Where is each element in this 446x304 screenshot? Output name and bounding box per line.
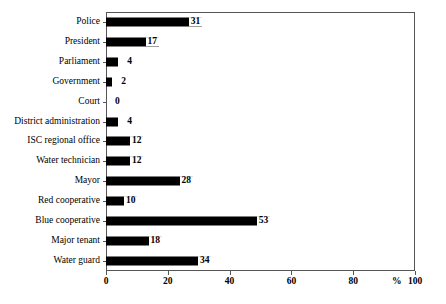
chart-row: Mayor28 — [106, 171, 415, 191]
bar — [106, 217, 270, 226]
x-axis-tick — [415, 271, 416, 275]
x-axis-tick — [168, 271, 169, 275]
bar-value-label: 4 — [125, 117, 134, 127]
category-label: Major tenant — [51, 236, 100, 246]
bar-value-label: 0 — [113, 97, 122, 107]
bar-value-label: 31 — [189, 17, 203, 27]
category-label: Parliament — [59, 57, 100, 67]
chart-row: Major tenant18 — [106, 231, 415, 251]
chart-row: ISC regional office12 — [106, 132, 415, 152]
x-axis-tick — [353, 271, 354, 275]
y-axis-tick — [103, 102, 106, 103]
x-axis-tick-label: 60 — [287, 277, 297, 287]
x-axis-tick — [230, 271, 231, 275]
x-axis: % 020406080100 — [106, 271, 415, 301]
bar — [106, 17, 202, 26]
bar-value-label: 10 — [124, 197, 138, 207]
x-axis-tick — [106, 271, 107, 275]
category-label: District administration — [14, 117, 100, 127]
x-axis-tick-label: 40 — [225, 277, 235, 287]
x-axis-percent-label: % — [392, 277, 402, 287]
category-label: Mayor — [75, 177, 100, 187]
x-axis-tick — [291, 271, 292, 275]
x-axis-tick-label: 0 — [104, 277, 109, 287]
category-label: Water guard — [54, 256, 100, 266]
bar — [106, 257, 211, 266]
bar-value-label: 12 — [130, 137, 144, 147]
category-label: Police — [76, 17, 100, 27]
chart-row: Government2 — [106, 72, 415, 92]
category-label: Blue cooperative — [35, 216, 100, 226]
chart-row: Court0 — [106, 92, 415, 112]
category-label: ISC regional office — [27, 137, 100, 147]
category-label: President — [65, 37, 100, 47]
chart-row: Blue cooperative53 — [106, 211, 415, 231]
chart-row: Red cooperative10 — [106, 191, 415, 211]
bar-value-label: 12 — [130, 157, 144, 167]
bar-value-label: 2 — [119, 77, 128, 87]
bar — [106, 77, 112, 86]
bar-chart: Police31President17Parliament4Government… — [0, 0, 446, 304]
x-axis-tick-label: 20 — [163, 277, 173, 287]
chart-row: President17 — [106, 32, 415, 52]
category-label: Red cooperative — [38, 197, 100, 207]
bar-value-label: 18 — [149, 236, 163, 246]
bar-value-label: 4 — [125, 57, 134, 67]
category-label: Government — [53, 77, 101, 87]
bar-value-label: 53 — [257, 216, 271, 226]
category-label: Water technician — [36, 157, 100, 167]
bar-value-label: 28 — [180, 177, 194, 187]
chart-row: Police31 — [106, 12, 415, 32]
bar — [106, 117, 118, 126]
bar — [106, 57, 118, 66]
bar-value-label: 34 — [198, 256, 212, 266]
category-label: Court — [78, 97, 100, 107]
bar-value-label: 17 — [146, 37, 160, 47]
chart-row: Water guard34 — [106, 251, 415, 271]
chart-row: District administration4 — [106, 112, 415, 132]
x-axis-tick-label: 80 — [348, 277, 358, 287]
chart-row: Parliament4 — [106, 52, 415, 72]
x-axis-tick-label: 100 — [408, 277, 422, 287]
chart-row: Water technician12 — [106, 151, 415, 171]
